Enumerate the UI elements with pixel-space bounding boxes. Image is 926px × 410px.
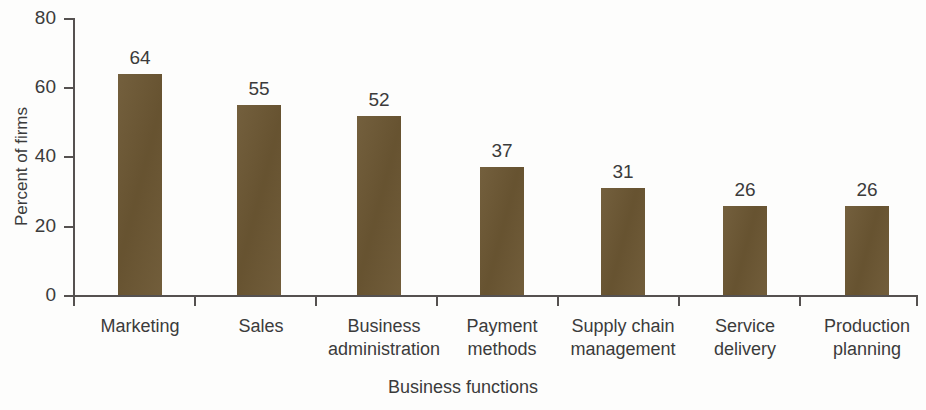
bar-value-production-planning: 26 (832, 180, 902, 199)
x-category-label-payment-methods: Payment methods (432, 315, 572, 361)
x-tick-mark (436, 297, 438, 306)
y-tick-60: 60 (0, 87, 74, 89)
x-category-label-line1: Business (347, 316, 420, 336)
x-tick-mark (557, 297, 559, 306)
bar-sales (237, 105, 281, 295)
y-tick-label: 60 (14, 77, 56, 96)
x-category-label-line1: Payment (466, 316, 537, 336)
y-tick-20: 20 (0, 226, 74, 228)
x-category-label-production-planning: Production planning (797, 315, 926, 361)
bar-value-marketing: 64 (105, 48, 175, 67)
bar-value-service-delivery: 26 (710, 180, 780, 199)
x-category-label-line1: Supply chain (571, 316, 674, 336)
x-category-label-service-delivery: Service delivery (675, 315, 815, 361)
bar-value-business-administration: 52 (344, 90, 414, 109)
x-axis-title: Business functions (0, 378, 926, 396)
y-tick-mark (64, 226, 74, 228)
bar-service-delivery (723, 206, 767, 295)
bar-value-payment-methods: 37 (467, 141, 537, 160)
bar-marketing (118, 74, 162, 295)
y-tick-label: 0 (14, 285, 56, 304)
y-tick-mark (64, 156, 74, 158)
y-tick-label: 20 (14, 216, 56, 235)
x-tick-mark (73, 297, 75, 306)
x-category-label-line2: planning (797, 338, 926, 361)
x-category-label-line1: Service (715, 316, 775, 336)
bar-value-sales: 55 (224, 79, 294, 98)
x-category-label-line2: methods (432, 338, 572, 361)
bar-chart: Percent of firms 80 60 40 20 0 64 55 52 … (0, 0, 926, 410)
x-category-label-line2: management (552, 338, 694, 361)
x-tick-mark (916, 297, 918, 306)
x-category-label-line1: Production (824, 316, 910, 336)
y-tick-mark (64, 87, 74, 89)
y-tick-label: 40 (14, 146, 56, 165)
y-tick-0: 0 (0, 295, 74, 297)
x-tick-mark (678, 297, 680, 306)
x-axis-line (73, 295, 918, 297)
x-tick-mark (194, 297, 196, 306)
bar-payment-methods (480, 167, 524, 295)
x-tick-mark (799, 297, 801, 306)
y-tick-mark (64, 18, 74, 20)
x-category-label-line1: Sales (238, 316, 283, 336)
bar-production-planning (845, 206, 889, 295)
bar-supply-chain-management (601, 188, 645, 295)
y-tick-label: 80 (14, 8, 56, 27)
x-category-label-supply-chain-management: Supply chain management (552, 315, 694, 361)
x-category-label-line2: delivery (675, 338, 815, 361)
x-category-label-line1: Marketing (100, 316, 179, 336)
x-tick-mark (315, 297, 317, 306)
y-tick-40: 40 (0, 156, 74, 158)
x-category-label-marketing: Marketing (70, 315, 210, 338)
bar-value-supply-chain-management: 31 (588, 162, 658, 181)
y-tick-80: 80 (0, 18, 74, 20)
bar-business-administration (357, 116, 401, 295)
